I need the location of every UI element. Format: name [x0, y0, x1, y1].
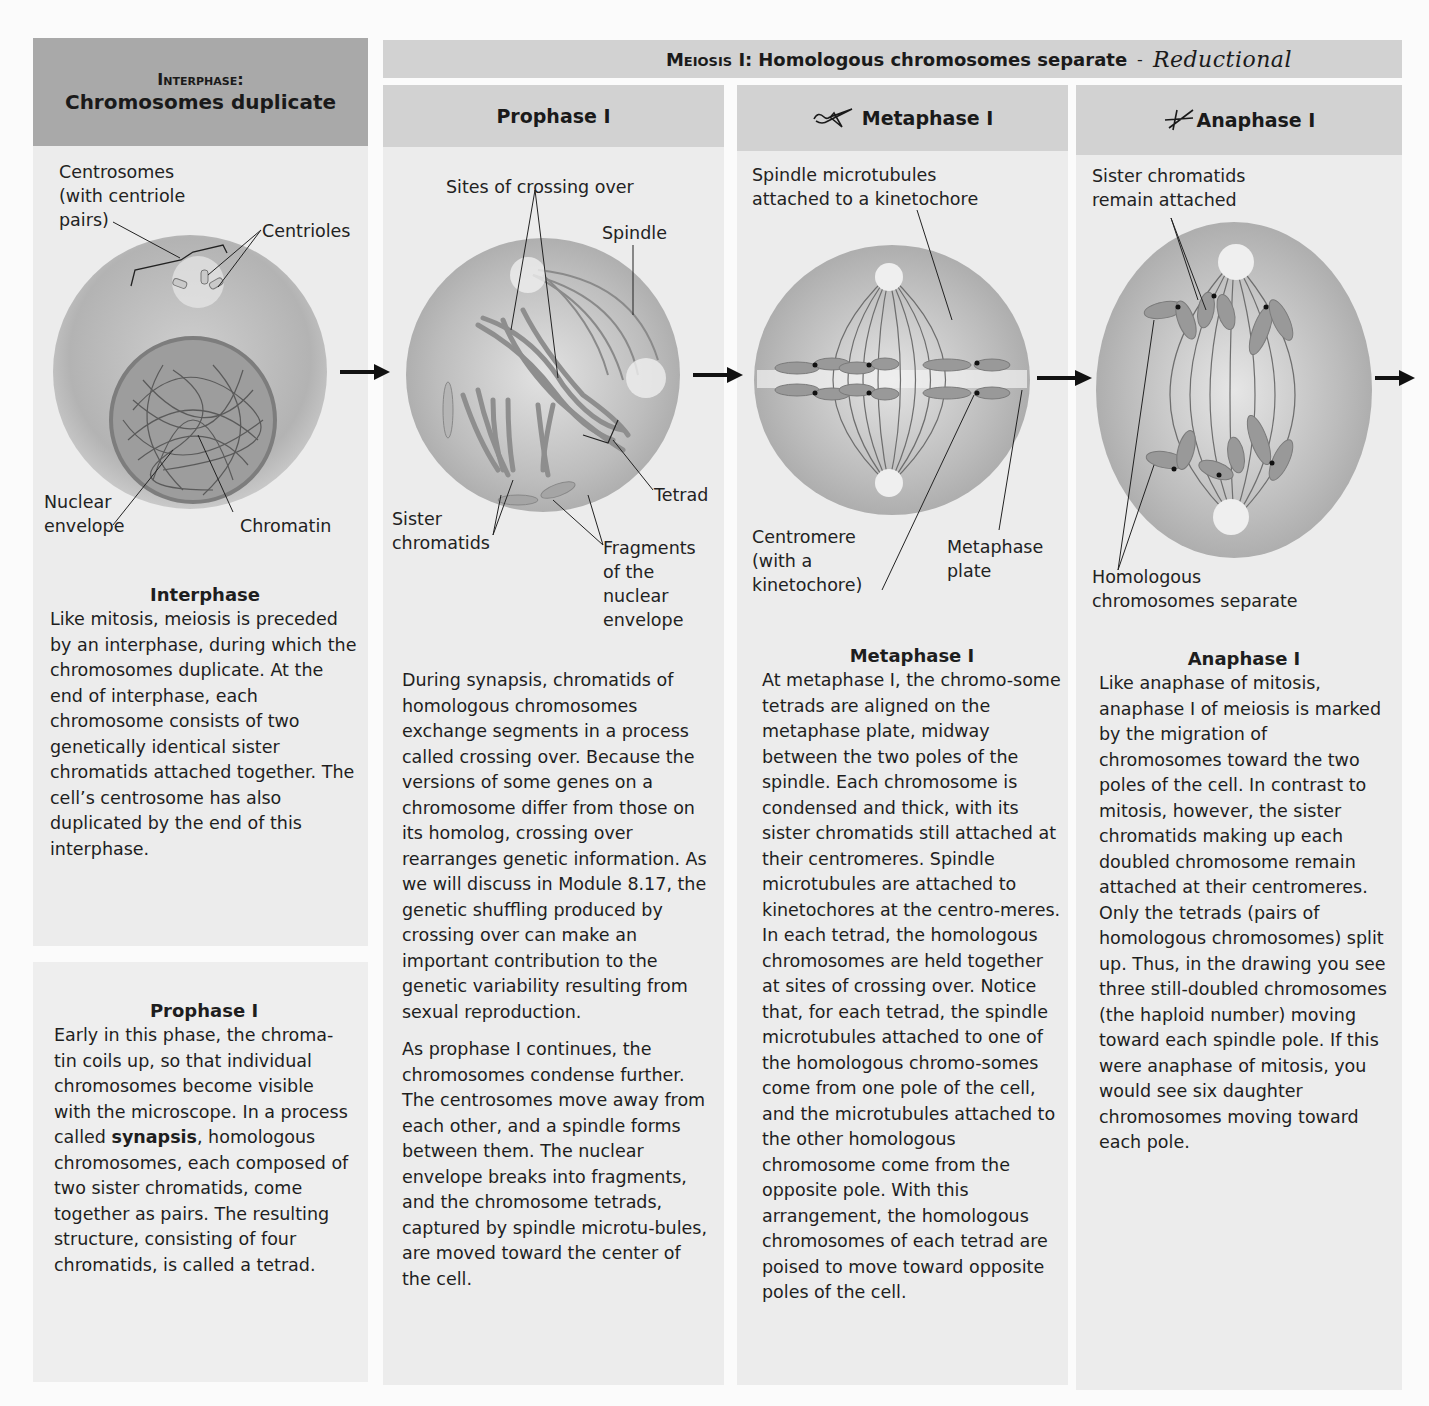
interphase-header-line2: Chromosomes duplicate: [65, 90, 336, 114]
label-homologous-chromosomes-separate: Homologous chromosomes separate: [1092, 565, 1298, 613]
anaphase-header-label: Anaphase I: [1197, 109, 1316, 131]
handwritten-note: Reductional: [1153, 47, 1292, 72]
label-spindle-microtubules: Spindle microtubules attached to a kinet…: [752, 163, 978, 211]
metaphase-description: Metaphase I At metaphase I, the chromo-s…: [762, 643, 1062, 1306]
metaphase-text-title: Metaphase I: [762, 643, 1062, 668]
prophase-text-p1: During synapsis, chromatids of homologou…: [402, 668, 714, 1025]
interphase-description: Interphase Like mitosis, meiosis is prec…: [50, 582, 360, 862]
early-prophase-description: Prophase I Early in this phase, the chro…: [54, 998, 354, 1278]
label-nuclear-envelope-fragments: Fragments of the nuclear envelope: [603, 536, 696, 632]
prophase-text-p2: As prophase I continues, the chromosomes…: [402, 1037, 714, 1292]
metaphase-header: Metaphase I: [737, 85, 1068, 151]
label-centrosomes: Centrosomes (with centriole pairs): [59, 160, 185, 232]
label-centrioles: Centrioles: [262, 219, 350, 243]
early-prophase-body: Early in this phase, the chroma-tin coil…: [54, 1023, 354, 1278]
label-spindle: Spindle: [602, 221, 667, 245]
prophase-cell-diagram: [383, 150, 724, 510]
metaphase-text-body: At metaphase I, the chromo-some tetrads …: [762, 668, 1062, 1306]
handwritten-star-icon: [1163, 108, 1195, 132]
label-sites-of-crossing-over: Sites of crossing over: [446, 175, 634, 199]
label-tetrad: Tetrad: [654, 483, 708, 507]
interphase-text-title: Interphase: [50, 582, 360, 607]
anaphase-text-title: Anaphase I: [1099, 646, 1389, 671]
anaphase-text-body: Like anaphase of mitosis, anaphase I of …: [1099, 671, 1389, 1156]
label-sister-chromatids-remain-attached: Sister chromatids remain attached: [1092, 164, 1245, 212]
interphase-header: Interphase: Chromosomes duplicate: [33, 38, 368, 146]
metaphase-header-label: Metaphase I: [862, 107, 994, 129]
prophase-header-label: Prophase I: [496, 105, 610, 127]
label-metaphase-plate: Metaphase plate: [947, 535, 1043, 583]
label-sister-chromatids: Sister chromatids: [392, 507, 490, 555]
anaphase-header: Anaphase I: [1076, 85, 1402, 155]
label-chromatin: Chromatin: [240, 514, 331, 538]
label-nuclear-envelope: Nuclear envelope: [44, 490, 124, 538]
anaphase-description: Anaphase I Like anaphase of mitosis, ana…: [1099, 646, 1389, 1156]
prophase-header: Prophase I: [383, 85, 724, 147]
prophase-description: During synapsis, chromatids of homologou…: [402, 668, 714, 1292]
anaphase-cell-diagram: [1076, 150, 1402, 570]
early-prophase-text-2: , homologous chromosomes, each composed …: [54, 1127, 348, 1275]
meiosis-banner-prefix: Meiosis I:: [666, 49, 752, 70]
meiosis-banner: Meiosis I: Homologous chromosomes separa…: [383, 40, 1402, 78]
interphase-text-body: Like mitosis, meiosis is preceded by an …: [50, 607, 360, 862]
meiosis-banner-dash: -: [1137, 50, 1143, 69]
label-centromere: Centromere (with a kinetochore): [752, 525, 862, 597]
interphase-header-line1: Interphase:: [157, 70, 243, 89]
early-prophase-title: Prophase I: [54, 998, 354, 1023]
synapsis-term: synapsis: [112, 1127, 197, 1147]
meiosis-banner-title: Homologous chromosomes separate: [758, 49, 1127, 70]
handwritten-star-icon: [812, 107, 856, 129]
